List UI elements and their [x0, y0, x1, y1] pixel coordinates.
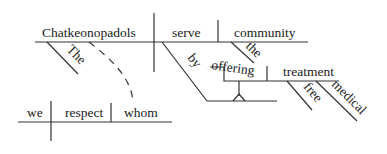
relative-subject-word: we [27, 105, 43, 120]
sentence-diagram: Chatkeonopadols serve community The the … [0, 0, 387, 154]
object-word: community [234, 25, 296, 40]
gerund-object-modifier-word-2: medical [329, 77, 370, 118]
preposition-line [162, 42, 207, 101]
gerund-object-word: treatment [283, 64, 334, 79]
verb-word: serve [172, 25, 200, 40]
relative-verb-word: respect [65, 105, 103, 120]
relative-connector-dashed [89, 42, 133, 103]
relative-object-word: whom [124, 105, 158, 120]
gerund-word: offering [211, 57, 256, 78]
subject-word: Chatkeonopadols [42, 25, 136, 40]
preposition-word: by [185, 51, 205, 71]
